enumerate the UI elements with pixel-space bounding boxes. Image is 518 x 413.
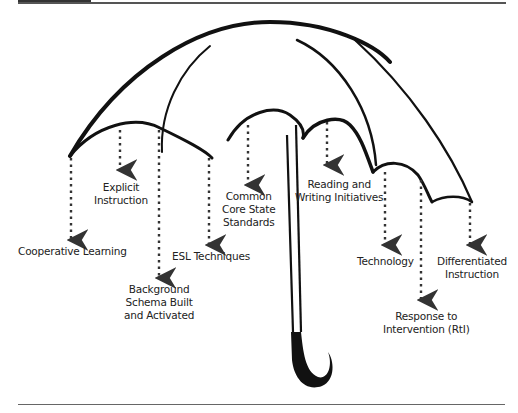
scallop-5 [432, 197, 472, 202]
umbrella-handle [291, 332, 333, 387]
label-technology: Technology [357, 255, 414, 268]
label-esl-techniques: ESL Techniques [172, 250, 250, 263]
label-differentiated-instruction: Differentiated Instruction [437, 255, 507, 281]
scallop-3 [303, 119, 373, 172]
label-rti: Response to Intervention (RtI) [383, 310, 470, 336]
canopy-inner-rib-left [162, 46, 210, 152]
umbrella-shaft-right [296, 125, 301, 332]
label-explicit-instruction: Explicit Instruction [94, 181, 148, 207]
label-cooperative-learning: Cooperative Learning [18, 245, 127, 258]
label-common-core: Common Core State Standards [222, 190, 275, 229]
umbrella-shaft-left [287, 135, 293, 332]
label-reading-writing: Reading and Writing Initiatives [295, 178, 383, 204]
scallop-1 [70, 122, 212, 158]
label-background-schema: Background Schema Built and Activated [124, 283, 194, 322]
bottom-rule [18, 404, 505, 405]
scallop-2 [228, 110, 303, 140]
